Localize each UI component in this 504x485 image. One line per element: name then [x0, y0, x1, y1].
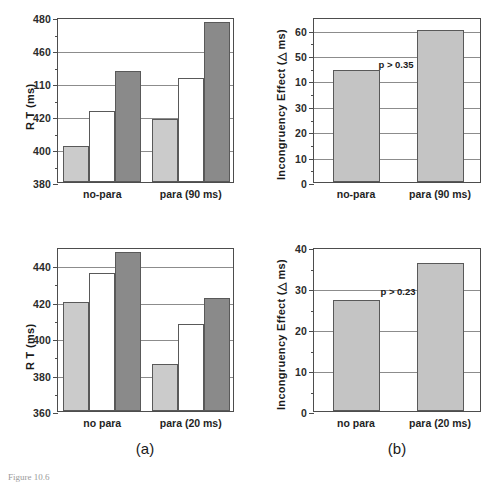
bar [152, 364, 178, 411]
bar [115, 252, 141, 411]
y-axis-tick-label: 30 [295, 284, 307, 296]
plot-area-bottom-left: 360380400420440no parapara (20 ms) [57, 248, 234, 412]
x-axis-category-label: para (20 ms) [160, 417, 222, 429]
plot-area-top-left: 380400420110460480no-parapara (90 ms) [57, 18, 234, 183]
panel-label-a: (a) [136, 440, 154, 457]
y-axis-tick-label: 10 [295, 76, 307, 88]
y-axis-tick [53, 304, 58, 305]
y-axis-tick [309, 82, 314, 83]
bar [417, 30, 464, 182]
y-axis-minor-tick [55, 285, 58, 286]
y-axis-minor-tick [311, 121, 314, 122]
bar [178, 324, 204, 411]
y-axis-tick [53, 118, 58, 119]
y-axis-tick-label: 400 [33, 145, 51, 157]
p-value-annotation: p > 0.23 [380, 286, 415, 297]
y-axis-title-bottom-left: R T (ms) [24, 324, 36, 370]
x-axis-category-label: para (90 ms) [409, 188, 471, 200]
bar [204, 298, 230, 411]
y-axis-tick [309, 372, 314, 373]
y-axis-tick-label: 360 [33, 407, 51, 419]
x-axis-category-label: no para [83, 417, 121, 429]
y-axis-tick-label: 10 [295, 366, 307, 378]
y-axis-tick-label: 50 [295, 51, 307, 63]
y-axis-tick-label: 440 [33, 261, 51, 273]
y-axis-tick [309, 413, 314, 414]
bar [63, 146, 89, 182]
y-axis-minor-tick [311, 95, 314, 96]
y-axis-minor-tick [55, 395, 58, 396]
y-axis-minor-tick [311, 311, 314, 312]
y-axis-minor-tick [55, 69, 58, 70]
y-axis-tick-label: 0 [301, 407, 307, 419]
bar [178, 78, 204, 182]
y-axis-minor-tick [55, 135, 58, 136]
panel-label-b: (b) [388, 440, 406, 457]
y-axis-minor-tick [311, 146, 314, 147]
y-axis-tick-label: 10 [295, 153, 307, 165]
y-axis-title-bottom-right: Incongruency Effect (△ ms) [275, 259, 288, 410]
y-axis-tick-label: 20 [295, 325, 307, 337]
y-axis-tick [53, 377, 58, 378]
y-axis-tick [309, 57, 314, 58]
bar [152, 119, 178, 182]
y-axis-title-top-right: Incongruency Effect (△ ms) [275, 29, 288, 180]
bar [417, 263, 464, 411]
y-axis-minor-tick [55, 36, 58, 37]
x-axis-category-label: para (20 ms) [409, 417, 471, 429]
y-axis-tick [309, 108, 314, 109]
y-axis-tick [53, 413, 58, 414]
y-axis-tick-label: 380 [33, 178, 51, 190]
y-axis-tick-label: 420 [33, 298, 51, 310]
y-axis-tick-label: 420 [33, 112, 51, 124]
y-axis-minor-tick [55, 358, 58, 359]
y-axis-tick [309, 32, 314, 33]
y-axis-minor-tick [311, 393, 314, 394]
y-axis-tick-label: 30 [295, 102, 307, 114]
y-axis-tick-label: 60 [295, 26, 307, 38]
x-axis-category-label: para (90 ms) [160, 188, 222, 200]
gridline [58, 267, 233, 268]
y-axis-tick [309, 249, 314, 250]
y-axis-minor-tick [311, 44, 314, 45]
bar [204, 22, 230, 182]
y-axis-tick [309, 331, 314, 332]
y-axis-tick-label: 380 [33, 371, 51, 383]
x-axis-category-label: no-para [83, 188, 122, 200]
plot-area-top-right: 0102030105060no-parapara (90 ms)p > 0.35 [313, 18, 481, 183]
y-axis-minor-tick [55, 102, 58, 103]
y-axis-tick [53, 267, 58, 268]
y-axis-tick [309, 184, 314, 185]
x-axis-category-label: no para [337, 417, 375, 429]
bar [333, 300, 380, 411]
bar [115, 71, 141, 182]
y-axis-tick [53, 85, 58, 86]
y-axis-tick [53, 151, 58, 152]
y-axis-tick-label: 400 [33, 334, 51, 346]
y-axis-tick [53, 52, 58, 53]
y-axis-minor-tick [311, 352, 314, 353]
bar [89, 273, 115, 411]
y-axis-tick [309, 290, 314, 291]
y-axis-tick-label: 460 [33, 46, 51, 58]
y-axis-tick [53, 340, 58, 341]
plot-area-bottom-right: 010203040no parapara (20 ms)p > 0.23 [313, 248, 481, 412]
y-axis-tick [309, 133, 314, 134]
y-axis-tick-label: 20 [295, 127, 307, 139]
y-axis-minor-tick [311, 171, 314, 172]
y-axis-tick [309, 159, 314, 160]
y-axis-tick [53, 19, 58, 20]
y-axis-tick-label: 0 [301, 178, 307, 190]
y-axis-minor-tick [55, 322, 58, 323]
y-axis-tick [53, 184, 58, 185]
y-axis-minor-tick [311, 270, 314, 271]
x-axis-category-label: no-para [337, 188, 376, 200]
figure-caption: Figure 10.6 [8, 472, 128, 484]
y-axis-tick-label: 480 [33, 13, 51, 25]
y-axis-minor-tick [55, 168, 58, 169]
p-value-annotation: p > 0.35 [378, 59, 413, 70]
y-axis-tick-label: 40 [295, 243, 307, 255]
y-axis-minor-tick [311, 70, 314, 71]
bar [63, 302, 89, 411]
bar [333, 70, 380, 182]
